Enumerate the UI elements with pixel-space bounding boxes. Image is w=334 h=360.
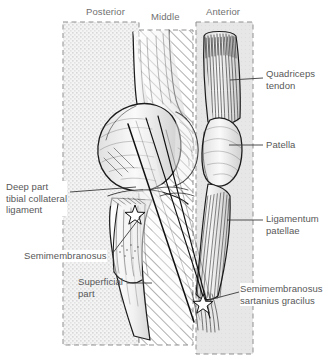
annotation-deep-part-tibial-collateral-ligament: Deep part tibial collateral ligament: [6, 181, 67, 216]
zone-label-posterior: Posterior: [86, 6, 125, 17]
illustration-stage: Posterior Middle Anterior Quadriceps ten…: [0, 0, 334, 360]
zone-label-anterior: Anterior: [206, 6, 240, 17]
knee-anatomy-figure: [0, 0, 334, 360]
patella-bone: [202, 118, 242, 186]
annotation-semimembranosus-sartanius-gracilus: Semimembranosus sartanius gracilus: [240, 283, 323, 306]
annotation-semimembranosus: Semimembranosus: [24, 250, 107, 262]
annotation-patella: Patella: [266, 139, 295, 151]
zone-label-middle: Middle: [151, 11, 180, 22]
annotation-ligamentum-patellae: Ligamentum patellae: [266, 213, 319, 236]
quadriceps-tendon-fibers: [204, 31, 241, 125]
annotation-quadriceps-tendon: Quadriceps tendon: [266, 68, 315, 91]
annotation-superficial-part: Superficial part: [78, 276, 123, 299]
